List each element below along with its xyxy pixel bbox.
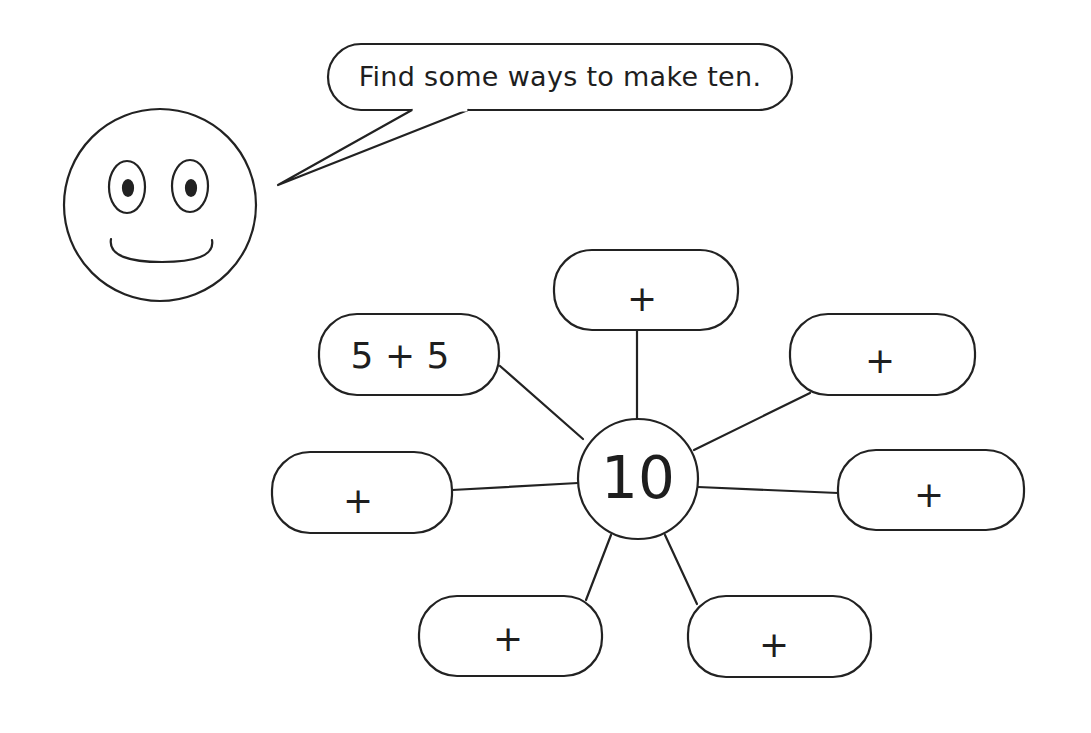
center-value: 10 [578, 419, 698, 537]
box-text-left: + [316, 480, 400, 520]
box-text-lower-right: + [732, 624, 816, 664]
speech-bubble-tail [278, 110, 468, 185]
smiley-face-icon [64, 109, 256, 301]
box-text-top: + [600, 278, 684, 318]
box-text-upper-left: 5 + 5 [330, 333, 470, 377]
speech-bubble-text: Find some ways to make ten. [328, 44, 792, 108]
box-text-lower-left: + [466, 618, 550, 658]
box-text-upper-right: + [838, 340, 922, 380]
box-text-right: + [887, 474, 971, 514]
